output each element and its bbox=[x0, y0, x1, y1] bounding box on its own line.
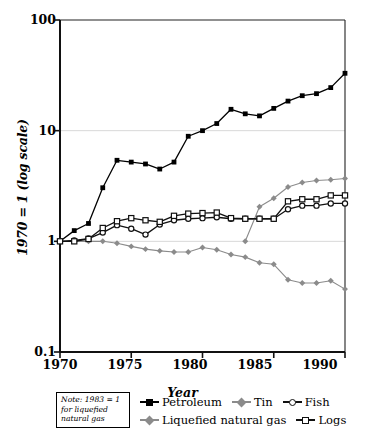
data-point bbox=[228, 216, 233, 221]
legend-label: Tin bbox=[254, 396, 273, 408]
data-point bbox=[299, 180, 305, 186]
data-point bbox=[143, 218, 148, 223]
x-tick-label: 1975 bbox=[95, 357, 155, 372]
data-point bbox=[200, 245, 206, 251]
data-point bbox=[143, 232, 148, 237]
data-point bbox=[100, 185, 105, 190]
data-point bbox=[314, 197, 319, 202]
legend-item[interactable]: Liquefied natural gas bbox=[140, 414, 286, 426]
data-point bbox=[157, 167, 162, 172]
data-point bbox=[328, 177, 334, 183]
data-point bbox=[228, 252, 234, 258]
data-point bbox=[214, 247, 220, 253]
data-point bbox=[314, 91, 319, 96]
data-point bbox=[243, 216, 248, 221]
data-point bbox=[171, 249, 177, 255]
data-point bbox=[186, 134, 191, 139]
legend-item[interactable]: Fish bbox=[283, 396, 330, 408]
data-point bbox=[328, 201, 333, 206]
data-point bbox=[86, 236, 91, 241]
data-point bbox=[157, 248, 163, 254]
legend-label: Petroleum bbox=[162, 396, 222, 408]
legend-marker-icon bbox=[283, 396, 302, 408]
data-point bbox=[328, 85, 333, 90]
data-point bbox=[172, 160, 177, 165]
chart-legend: PetroleumTinFish Liquefied natural gasLo… bbox=[140, 393, 365, 431]
data-point bbox=[342, 175, 348, 181]
legend-row: PetroleumTinFish bbox=[140, 393, 340, 411]
legend-item[interactable]: Tin bbox=[232, 396, 273, 408]
series-liquefied-natural-gas bbox=[242, 175, 348, 244]
data-point bbox=[257, 113, 262, 118]
data-point bbox=[257, 204, 263, 210]
legend-row: Liquefied natural gasLogs bbox=[140, 411, 356, 429]
legend-label: Liquefied natural gas bbox=[162, 414, 286, 426]
data-point bbox=[200, 128, 205, 133]
legend-label: Fish bbox=[305, 396, 330, 408]
data-point bbox=[285, 199, 290, 204]
data-point bbox=[314, 203, 319, 208]
data-point bbox=[342, 201, 347, 206]
chart-figure: 1970 = 1 (log scale) 100 10 1 0.1 1970 1… bbox=[0, 0, 365, 435]
data-point bbox=[129, 160, 134, 165]
legend-item[interactable]: Petroleum bbox=[140, 396, 222, 408]
data-point bbox=[300, 197, 305, 202]
data-point bbox=[129, 216, 134, 221]
x-tick-label: 1970 bbox=[30, 357, 90, 372]
data-point bbox=[115, 158, 120, 163]
data-point bbox=[242, 254, 248, 260]
x-tick-label: 1990 bbox=[290, 357, 350, 372]
data-point bbox=[72, 239, 77, 244]
data-point bbox=[328, 193, 333, 198]
data-point bbox=[214, 121, 219, 126]
x-tick-label: 1985 bbox=[225, 357, 285, 372]
data-point bbox=[343, 71, 348, 76]
legend-item[interactable]: Logs bbox=[296, 414, 346, 426]
data-point bbox=[214, 210, 219, 215]
chart-note: Note: 1983 = 1 for liquefied natural gas bbox=[56, 392, 130, 428]
data-point bbox=[186, 211, 191, 216]
data-point bbox=[200, 216, 205, 221]
legend-marker-icon bbox=[140, 396, 159, 408]
legend-label: Logs bbox=[318, 414, 346, 426]
data-point bbox=[314, 280, 320, 286]
data-point bbox=[114, 219, 119, 224]
data-point bbox=[271, 216, 276, 221]
data-point bbox=[186, 216, 191, 221]
data-point bbox=[342, 286, 348, 292]
data-point bbox=[300, 203, 305, 208]
data-point bbox=[143, 162, 148, 167]
data-point bbox=[100, 238, 106, 244]
series-fish bbox=[57, 201, 347, 244]
series-tin bbox=[57, 238, 348, 292]
data-point bbox=[200, 210, 205, 215]
data-point bbox=[286, 99, 291, 104]
data-point bbox=[257, 260, 263, 266]
data-point bbox=[143, 246, 149, 252]
data-point bbox=[157, 219, 162, 224]
data-point bbox=[57, 239, 62, 244]
data-point bbox=[242, 238, 248, 244]
x-tick-label: 1980 bbox=[160, 357, 220, 372]
legend-marker-icon bbox=[140, 414, 159, 426]
data-point bbox=[285, 207, 290, 212]
data-point bbox=[257, 216, 262, 221]
data-point bbox=[243, 111, 248, 116]
data-point bbox=[100, 225, 105, 230]
data-point bbox=[342, 193, 347, 198]
data-point bbox=[129, 226, 134, 231]
data-point bbox=[300, 93, 305, 98]
data-point bbox=[314, 177, 320, 183]
data-point bbox=[185, 249, 191, 255]
data-point bbox=[72, 228, 77, 233]
legend-marker-icon bbox=[232, 396, 251, 408]
data-point bbox=[271, 106, 276, 111]
data-point bbox=[128, 243, 134, 249]
data-point bbox=[328, 278, 334, 284]
data-point bbox=[229, 107, 234, 112]
data-point bbox=[86, 221, 91, 226]
data-point bbox=[171, 213, 176, 218]
legend-marker-icon bbox=[296, 414, 315, 426]
data-point bbox=[299, 280, 305, 286]
